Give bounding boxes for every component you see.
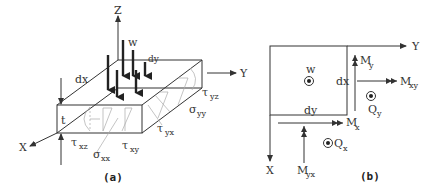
figure-a: Z X Y w dy dx t τ xz σ xx [19, 4, 248, 184]
moment-myx-label: M yx [297, 164, 316, 179]
load-w-label-b: w [306, 63, 316, 76]
x-axis-label-b: X [266, 164, 274, 177]
plate-element-block [57, 60, 202, 133]
dx-label: dx [75, 73, 89, 86]
load-w-out-of-plane-icon [305, 77, 314, 86]
shear-qy-label: Q y [368, 103, 382, 118]
svg-text:xy: xy [130, 145, 140, 154]
svg-text:x: x [355, 123, 360, 132]
y-axis-label: Y [239, 67, 248, 80]
plate-element-diagram: Z X Y w dy dx t τ xz σ xx [0, 0, 442, 191]
moment-my-label: M y [360, 54, 374, 70]
svg-text:Q: Q [334, 137, 343, 150]
svg-text:τ: τ [71, 136, 77, 149]
caption-a: (a) [103, 171, 123, 184]
svg-text:yz: yz [209, 92, 219, 101]
stress-distribution-sketches [84, 68, 196, 155]
dx-label-b: dx [336, 75, 350, 88]
svg-text:τ: τ [202, 86, 208, 99]
tau-xz-label: τ xz [71, 136, 88, 151]
svg-text:σ: σ [189, 103, 197, 116]
shear-qy-out-of-plane-icon [367, 92, 376, 101]
x-axis-label: X [19, 141, 27, 154]
dy-label: dy [148, 54, 160, 64]
x-axis [30, 133, 57, 146]
svg-text:xx: xx [101, 154, 111, 163]
tau-yz-label: τ yz [202, 86, 219, 101]
tau-xy-label: τ xy [122, 139, 140, 154]
tau-yx-label: τ yx [157, 122, 175, 137]
z-axis-label: Z [114, 4, 122, 17]
moment-mx-label: M x [346, 116, 360, 132]
svg-text:τ: τ [157, 122, 163, 135]
svg-text:yx: yx [305, 170, 316, 179]
load-w-label: w [128, 36, 138, 49]
svg-text:xz: xz [79, 142, 88, 151]
diag-front-line [57, 88, 118, 133]
svg-text:yx: yx [164, 128, 175, 137]
dy-label-b: dy [304, 104, 318, 117]
figure-b: Y X w dx dy M y M xy Q y [266, 40, 420, 183]
svg-text:Q: Q [368, 103, 377, 116]
svg-text:xy: xy [409, 81, 419, 90]
svg-text:σ: σ [93, 148, 101, 161]
svg-text:y: y [368, 61, 374, 70]
moment-mxy-label: M xy [400, 75, 419, 90]
y-axis-label-b: Y [411, 40, 420, 53]
svg-text:y: y [376, 109, 382, 118]
svg-text:x: x [343, 144, 348, 153]
sigma-xx-label: σ xx [93, 148, 111, 163]
svg-text:yy: yy [196, 109, 207, 118]
svg-text:τ: τ [122, 139, 128, 152]
thickness-t-label: t [61, 114, 66, 127]
shear-qx-label: Q x [334, 137, 348, 153]
sigma-yy-label: σ yy [189, 103, 207, 118]
shear-qx-out-of-plane-icon [324, 139, 333, 148]
top-right-edge [142, 60, 202, 105]
caption-b: (b) [360, 170, 380, 183]
